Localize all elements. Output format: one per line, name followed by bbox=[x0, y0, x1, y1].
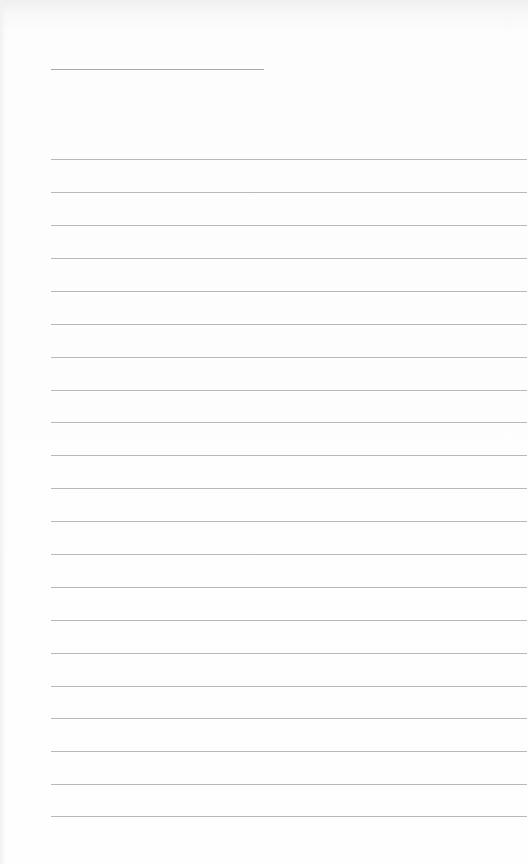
ruled-line bbox=[51, 751, 527, 752]
ruled-line bbox=[51, 784, 527, 785]
ruled-line bbox=[51, 554, 527, 555]
ruled-line bbox=[51, 258, 527, 259]
ruled-line bbox=[51, 291, 527, 292]
ruled-line bbox=[51, 686, 527, 687]
ruled-line bbox=[51, 653, 527, 654]
ruled-line bbox=[51, 816, 527, 817]
ruled-line bbox=[51, 390, 527, 391]
ruled-line bbox=[51, 488, 527, 489]
ruled-line bbox=[51, 718, 527, 719]
ruled-line bbox=[51, 422, 527, 423]
notepad-page bbox=[0, 0, 528, 864]
ruled-line bbox=[51, 225, 527, 226]
ruled-line bbox=[51, 620, 527, 621]
ruled-line bbox=[51, 455, 527, 456]
header-rule bbox=[51, 69, 264, 70]
ruled-line bbox=[51, 521, 527, 522]
ruled-line bbox=[51, 159, 527, 160]
ruled-line bbox=[51, 324, 527, 325]
ruled-line bbox=[51, 587, 527, 588]
ruled-line bbox=[51, 357, 527, 358]
ruled-line bbox=[51, 192, 527, 193]
